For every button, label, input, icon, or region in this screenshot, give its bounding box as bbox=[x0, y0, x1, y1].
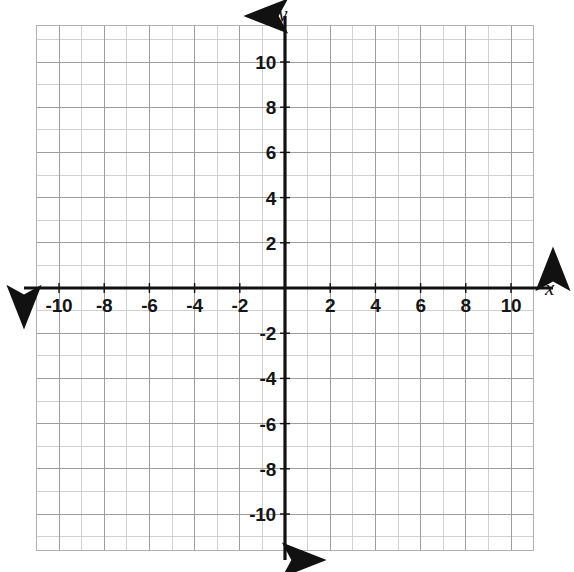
y-tick-label: 4 bbox=[266, 188, 276, 207]
x-tick-label: 6 bbox=[415, 296, 425, 315]
y-tick-label: -8 bbox=[260, 459, 277, 478]
x-tick-label: -10 bbox=[46, 296, 73, 315]
x-tick-label: 4 bbox=[370, 296, 380, 315]
y-tick-label: -2 bbox=[260, 324, 277, 343]
x-tick-label: 2 bbox=[325, 296, 335, 315]
y-tick-label: 8 bbox=[266, 98, 276, 117]
y-tick-label: 2 bbox=[266, 233, 276, 252]
x-tick-label: -4 bbox=[186, 296, 203, 315]
x-axis-label: x bbox=[545, 278, 554, 299]
graph-canvas bbox=[0, 0, 574, 572]
y-tick-label: -6 bbox=[260, 414, 277, 433]
x-tick-label: -6 bbox=[141, 296, 158, 315]
y-tick-label: -4 bbox=[260, 369, 277, 388]
y-axis-label: y bbox=[278, 4, 287, 25]
x-tick-label: 10 bbox=[501, 296, 522, 315]
x-tick-label: 8 bbox=[461, 296, 471, 315]
coordinate-plane-graph: -10-8-6-4-2246810 108642-2-4-6-8-10 x y bbox=[0, 0, 574, 572]
y-tick-label: -10 bbox=[249, 505, 276, 524]
x-tick-label: -8 bbox=[96, 296, 113, 315]
y-tick-label: 10 bbox=[255, 53, 276, 72]
y-tick-label: 6 bbox=[266, 143, 276, 162]
x-tick-label: -2 bbox=[232, 296, 249, 315]
